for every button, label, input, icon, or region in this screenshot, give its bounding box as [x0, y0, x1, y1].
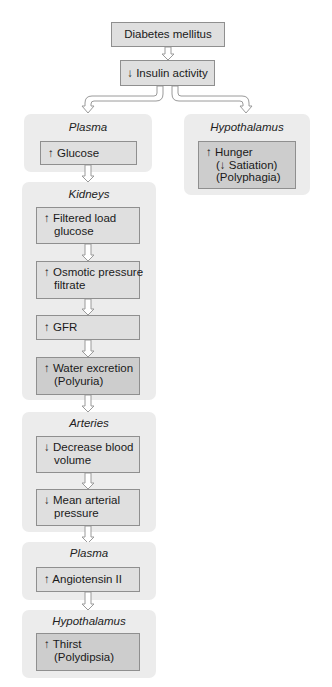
- water-excretion-line-2: (Polyuria): [44, 375, 133, 388]
- thirst-line-1: ↑ Thirst: [44, 638, 133, 651]
- hunger-box: ↑ Hunger (↓ Satiation) (Polyphagia): [198, 141, 296, 189]
- mean-arterial-pressure-box: ↓ Mean arterial pressure: [36, 489, 140, 526]
- decrease-blood-volume-line-1: ↓ Decrease blood: [44, 441, 133, 454]
- arrow-down-icon: [81, 395, 95, 413]
- insulin-activity-box: ↓ Insulin activity: [120, 60, 215, 86]
- filtered-load-line-2: glucose: [44, 225, 133, 238]
- plasma-panel-2-title: Plasma: [22, 547, 156, 559]
- diabetes-mellitus-box: Diabetes mellitus: [111, 22, 225, 47]
- arrow-down-icon: [81, 340, 95, 358]
- glucose-label: ↑ Glucose: [48, 147, 99, 160]
- glucose-box: ↑ Glucose: [40, 141, 137, 165]
- arrow-down-icon: [81, 473, 95, 490]
- plasma-panel-title: Plasma: [24, 121, 152, 133]
- water-excretion-box: ↑ Water excretion (Polyuria): [36, 357, 140, 395]
- branch-arrow-right-icon: [168, 86, 258, 116]
- diabetes-mellitus-label: Diabetes mellitus: [124, 28, 212, 41]
- arrow-down-icon: [81, 299, 95, 316]
- mean-arterial-pressure-line-2: pressure: [44, 507, 133, 520]
- decrease-blood-volume-line-2: volume: [44, 454, 133, 467]
- branch-arrow-left-icon: [78, 86, 168, 116]
- arrow-down-icon: [81, 592, 95, 611]
- filtered-load-glucose-box: ↑ Filtered load glucose: [36, 207, 140, 244]
- thirst-line-2: (Polydipsia): [44, 651, 133, 664]
- hunger-line-2: (↓ Satiation): [206, 159, 289, 172]
- osmotic-pressure-filtrate-box: ↑ Osmotic pressure filtrate: [36, 261, 140, 299]
- hunger-line-1: ↑ Hunger: [206, 146, 289, 159]
- osmotic-pressure-line-2: filtrate: [44, 279, 133, 292]
- thirst-box: ↑ Thirst (Polydipsia): [36, 633, 140, 671]
- water-excretion-line-1: ↑ Water excretion: [44, 362, 133, 375]
- gfr-label: ↑ GFR: [44, 321, 77, 334]
- gfr-box: ↑ GFR: [36, 315, 140, 340]
- hypothalamus-panel-2-title: Hypothalamus: [22, 615, 156, 627]
- arrow-down-icon: [161, 47, 175, 61]
- angiotensin-ii-label: ↑ Angiotensin II: [44, 573, 122, 586]
- kidneys-panel-title: Kidneys: [22, 188, 156, 200]
- arrow-down-icon: [81, 244, 95, 262]
- mean-arterial-pressure-line-1: ↓ Mean arterial: [44, 494, 133, 507]
- decrease-blood-volume-box: ↓ Decrease blood volume: [36, 436, 140, 473]
- arrow-down-icon: [81, 165, 95, 183]
- hunger-line-3: (Polyphagia): [206, 171, 289, 184]
- hypothalamus-panel-title: Hypothalamus: [184, 121, 310, 133]
- filtered-load-line-1: ↑ Filtered load: [44, 212, 133, 225]
- arteries-panel-title: Arteries: [22, 417, 156, 429]
- angiotensin-ii-box: ↑ Angiotensin II: [36, 567, 140, 592]
- insulin-activity-label: ↓ Insulin activity: [127, 67, 208, 80]
- osmotic-pressure-line-1: ↑ Osmotic pressure: [44, 266, 133, 279]
